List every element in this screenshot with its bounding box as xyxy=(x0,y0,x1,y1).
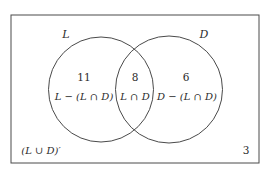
set-l-circle xyxy=(49,37,154,142)
right-only-count: 6 xyxy=(183,71,190,83)
set-d-circle xyxy=(116,36,223,143)
venn-diagram: L D 11 L − (L ∩ D) 8 L ∩ D 6 D − (L ∩ D)… xyxy=(0,0,270,175)
left-only-label: L − (L ∩ D) xyxy=(54,91,114,102)
complement-count: 3 xyxy=(243,144,250,156)
left-only-count: 11 xyxy=(77,71,90,83)
right-only-label: D − (L ∩ D) xyxy=(156,91,217,102)
intersection-count: 8 xyxy=(132,71,139,83)
complement-label: (L ∪ D)′ xyxy=(21,145,61,156)
set-l-label: L xyxy=(61,28,69,41)
intersection-label: L ∩ D xyxy=(119,91,149,102)
set-d-label: D xyxy=(199,28,209,41)
